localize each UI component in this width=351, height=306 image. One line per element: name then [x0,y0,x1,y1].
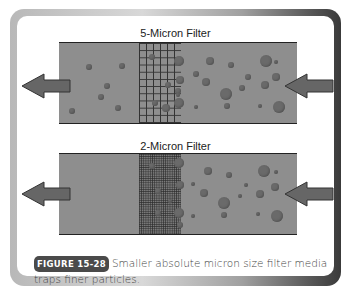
particle [202,78,210,86]
particle [98,94,104,100]
particle [174,98,184,108]
particle [244,183,248,187]
particle [224,103,230,109]
particle [149,163,155,169]
particle [258,104,262,108]
particle [274,60,278,64]
particle [245,74,251,80]
particle [228,62,234,68]
particle [260,55,272,67]
particle [152,100,158,106]
particle [155,210,161,216]
panel-title-2-micron: 2-Micron Filter [0,140,351,152]
particle [115,105,121,111]
particle [69,108,75,114]
particle [238,194,242,198]
outflow-arrow-icon [20,180,72,208]
particle [177,222,183,228]
particle [119,63,125,69]
particle [256,212,260,216]
panel-title-5-micron: 5-Micron Filter [0,27,351,39]
particle [221,212,227,218]
particle [174,208,184,218]
figure-caption: FIGURE 15-28Smaller absolute micron size… [34,256,334,286]
inflow-arrow-icon [283,72,335,100]
particle [149,54,155,60]
particle [258,165,270,177]
particle [174,56,184,66]
particle [271,210,283,222]
particle [218,197,230,209]
particle [191,182,195,186]
particle [194,105,198,109]
particle [272,73,280,81]
particle [191,214,195,218]
particle [155,188,161,194]
particle [168,199,172,203]
filter-media-5-micron [139,43,181,123]
particle [271,183,279,191]
particle [162,104,170,112]
particle [176,93,180,97]
particle [239,85,245,91]
particle [261,81,269,89]
particle [165,82,171,88]
particle [256,190,264,198]
particle [174,158,184,168]
inflow-arrow-icon [283,180,335,208]
particle [200,189,208,197]
particle [226,172,232,178]
figure-badge: FIGURE 15-28 [34,256,109,272]
particle [86,64,92,70]
particle [204,167,212,175]
particle [273,101,285,113]
particle [176,76,184,84]
outflow-arrow-icon [20,72,72,100]
particle [193,71,199,77]
particle [176,181,184,189]
particle [104,83,110,89]
particle [206,57,214,65]
particle [220,88,232,100]
particle [274,170,278,174]
